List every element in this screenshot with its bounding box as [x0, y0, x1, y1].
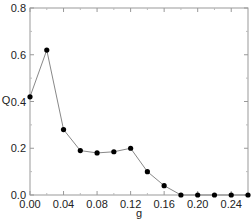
x-tick-label: 0.08 — [86, 198, 107, 210]
y-axis-label: Q — [2, 94, 11, 106]
data-point — [128, 146, 133, 151]
data-point — [245, 192, 250, 197]
data-series — [27, 47, 250, 197]
x-tick-label: 0.16 — [153, 198, 174, 210]
line-chart: 0.000.040.080.120.160.200.240.00.20.40.6… — [0, 0, 252, 222]
data-point — [44, 47, 49, 52]
y-tick-label: 0.4 — [11, 96, 26, 108]
plot-frame — [30, 8, 248, 195]
x-tick-label: 0.20 — [187, 198, 208, 210]
x-axis-label: g — [136, 207, 142, 219]
data-point — [27, 94, 32, 99]
data-point — [195, 192, 200, 197]
data-point — [178, 192, 183, 197]
data-point — [111, 149, 116, 154]
plot-axes — [30, 8, 248, 195]
data-point — [162, 183, 167, 188]
data-point — [212, 192, 217, 197]
data-point — [61, 127, 66, 132]
y-tick-label: 0.0 — [11, 189, 26, 201]
data-point — [78, 148, 83, 153]
data-point — [145, 169, 150, 174]
y-tick-label: 0.2 — [11, 142, 26, 154]
y-tick-label: 0.8 — [11, 2, 26, 14]
data-point — [94, 150, 99, 155]
x-tick-label: 0.04 — [53, 198, 74, 210]
data-point — [229, 192, 234, 197]
series-line — [30, 50, 248, 195]
y-tick-label: 0.6 — [11, 49, 26, 61]
axis-ticks: 0.000.040.080.120.160.200.240.00.20.40.6… — [11, 2, 248, 210]
x-tick-label: 0.24 — [221, 198, 242, 210]
